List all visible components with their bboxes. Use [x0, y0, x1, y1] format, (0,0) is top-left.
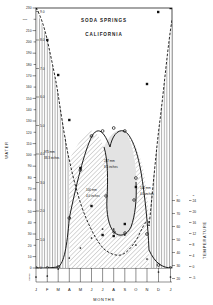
svg-text:190: 190: [26, 51, 32, 55]
svg-text:16: 16: [193, 221, 197, 225]
svg-text:30: 30: [177, 264, 181, 268]
svg-text:110: 110: [26, 142, 31, 146]
month-label: N: [146, 287, 149, 292]
svg-text:50: 50: [28, 210, 32, 214]
svg-text:230: 230: [26, 6, 32, 10]
celsius-unit: C: [193, 194, 195, 197]
month-label: A: [112, 287, 115, 292]
y-axis-title: WATER: [4, 141, 9, 159]
title-line-2: CALIFORNIA: [85, 32, 122, 37]
svg-text:90: 90: [28, 164, 32, 168]
svg-text:60: 60: [177, 225, 181, 229]
svg-text:210: 210: [26, 29, 32, 33]
surplus-amount-mm: 975 mm: [44, 150, 55, 154]
svg-text:2.0: 2.0: [40, 209, 45, 213]
svg-text:-5: -5: [193, 276, 196, 280]
svg-text:0: 0: [193, 265, 195, 269]
inches-label-left: inches: [28, 273, 31, 281]
svg-text:180: 180: [26, 63, 32, 67]
month-label: J: [170, 287, 172, 292]
deficit-amount-in: 8.1 inches: [104, 165, 118, 169]
svg-text:40: 40: [28, 221, 32, 225]
svg-text:150: 150: [26, 97, 32, 101]
svg-text:12: 12: [193, 232, 197, 236]
svg-text:6.0: 6.0: [40, 95, 45, 99]
month-label: D: [157, 287, 160, 292]
left-mm-unit: mm: [23, 18, 27, 21]
svg-text:160: 160: [26, 85, 32, 89]
x-axis-title: MONTHS: [93, 297, 115, 302]
month-label: J: [102, 287, 104, 292]
surplus-amount-in: 38.3 inches: [44, 156, 60, 160]
month-label: M: [79, 287, 82, 292]
svg-text:50: 50: [177, 238, 181, 242]
utilization-amount-mm: 100 mm: [140, 186, 151, 190]
month-label: S: [123, 287, 126, 292]
title-line-1: SODA SPRINGS: [81, 18, 127, 23]
svg-text:60: 60: [28, 198, 32, 202]
right-axis-title: TEMPERATURE: [202, 221, 207, 259]
deficit-amount-mm: 207 mm: [104, 159, 115, 163]
svg-text:3.0: 3.0: [40, 181, 45, 185]
svg-text:80: 80: [28, 176, 32, 180]
water-balance-figure: 230 210 200 190 180 170 160 150 140 130 …: [0, 0, 213, 305]
recharge-amount-in: 4.0 inches: [86, 194, 100, 198]
svg-text:70: 70: [177, 212, 181, 216]
month-label: A: [68, 287, 71, 292]
svg-text:30: 30: [28, 232, 32, 236]
svg-text:20: 20: [177, 277, 181, 281]
svg-text:40: 40: [177, 251, 181, 255]
month-label: J: [35, 287, 37, 292]
svg-text:7.0: 7.0: [40, 67, 45, 71]
svg-text:80: 80: [177, 199, 181, 203]
utilization-amount-in: 4.0 inches: [140, 192, 154, 196]
svg-text:24: 24: [193, 199, 197, 203]
svg-text:100: 100: [26, 153, 32, 157]
svg-text:0: 0: [40, 266, 42, 270]
month-label: O: [134, 287, 137, 292]
month-label: J: [91, 287, 93, 292]
recharge-amount-mm: 100 mm: [86, 188, 97, 192]
svg-text:9.0: 9.0: [40, 10, 45, 14]
svg-text:170: 170: [26, 74, 32, 78]
svg-text:200: 200: [26, 40, 32, 44]
month-label: M: [57, 287, 60, 292]
svg-text:8: 8: [193, 243, 195, 247]
svg-text:20: 20: [28, 244, 32, 248]
svg-text:120: 120: [26, 131, 32, 135]
svg-text:8.0: 8.0: [40, 38, 45, 42]
svg-text:1.0: 1.0: [40, 238, 45, 242]
svg-text:5.0: 5.0: [40, 124, 45, 128]
svg-text:0: 0: [30, 266, 32, 270]
svg-text:20: 20: [193, 210, 197, 214]
svg-text:10: 10: [28, 255, 32, 259]
svg-text:4: 4: [193, 254, 195, 258]
svg-text:70: 70: [28, 187, 32, 191]
svg-text:140: 140: [26, 108, 32, 112]
svg-text:130: 130: [26, 119, 32, 123]
